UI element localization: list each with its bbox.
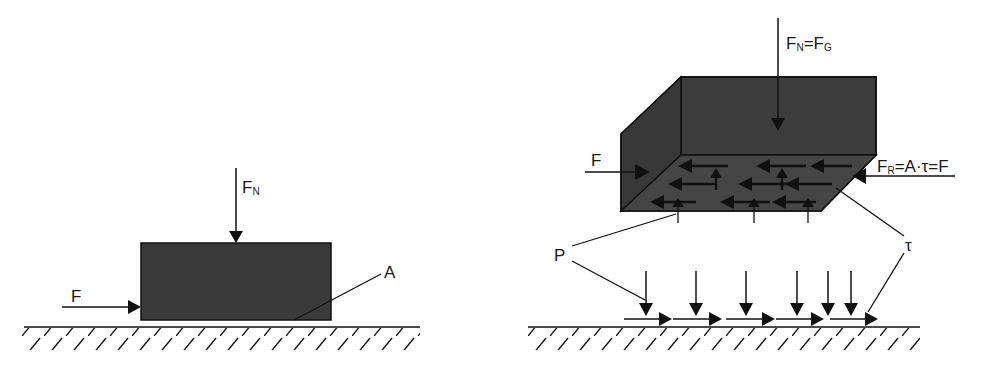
left-normal-force-arrow [229,168,243,243]
pressure-arrow-down [790,271,804,316]
shear-arrow-right [776,312,824,326]
shear-leader-lower [868,253,904,312]
pressure-leader-lower [572,261,645,300]
left-diagram: F FN A [22,168,420,350]
shear-arrow-right [673,312,722,326]
pressure-arrow-down [739,271,753,316]
ground-pressure-arrows [639,271,858,316]
shear-arrow-right [830,312,878,326]
shear-leader-upper [836,188,904,236]
left-normal-force-label: FN [242,178,260,197]
left-area-label: A [384,263,396,282]
ground-shear-arrows [624,312,878,326]
pressure-arrow-down [639,271,653,316]
right-force-label: F [591,151,601,170]
shear-arrow-right [624,312,672,326]
left-block [141,243,331,320]
left-force-label: F [71,287,81,306]
right-block [621,77,876,211]
shear-label: τ [905,236,912,255]
friction-diagram: F FN A [0,0,982,380]
pressure-arrow-down [689,271,703,316]
pressure-arrow-down [844,271,858,316]
right-ground-hatch [526,328,920,350]
right-diagram: F FN=FG FR=A·τ=F P τ [526,18,955,350]
shear-arrow-right [726,312,775,326]
left-ground-hatch [22,328,420,350]
right-normal-force-label: FN=FG [786,34,832,53]
pressure-leader-upper [572,214,676,246]
friction-force-label: FR=A·τ=F [877,157,949,176]
pressure-label: P [554,246,565,265]
pressure-arrow-down [821,271,835,316]
